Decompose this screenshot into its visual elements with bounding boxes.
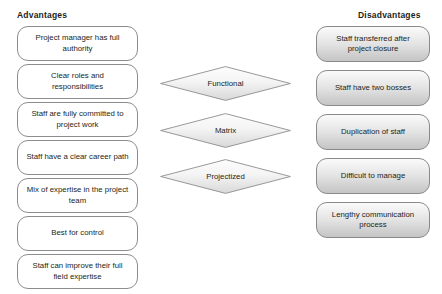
disadvantages-column-heading: Disadvantages — [358, 10, 421, 20]
disadvantage-box[interactable]: Staff transferred after project closure — [316, 26, 430, 62]
advantage-box-label: Staff can improve their full field exper… — [25, 261, 130, 282]
disadvantage-box-label: Lengthy communication process — [324, 210, 422, 231]
advantage-box-label: Clear roles and responsibilities — [25, 71, 130, 92]
advantage-box[interactable]: Best for control — [17, 216, 138, 251]
disadvantage-box-label: Staff transferred after project closure — [324, 34, 422, 55]
structure-diamond[interactable]: Projectized — [160, 159, 291, 194]
advantage-box[interactable]: Mix of expertise in the project team — [17, 178, 138, 213]
diamond-shape-icon — [160, 159, 291, 194]
structure-diamond[interactable]: Matrix — [160, 113, 291, 148]
disadvantage-box[interactable]: Duplication of staff — [316, 114, 430, 150]
disadvantage-box-label: Duplication of staff — [341, 127, 405, 138]
disadvantage-box-label: Difficult to manage — [341, 171, 405, 182]
advantage-box[interactable]: Clear roles and responsibilities — [17, 64, 138, 99]
disadvantage-box[interactable]: Lengthy communication process — [316, 202, 430, 238]
advantage-box[interactable]: Staff are fully committed to project wor… — [17, 102, 138, 137]
advantage-box-label: Best for control — [51, 228, 103, 239]
disadvantage-box-label: Staff have two bosses — [335, 83, 411, 94]
diamond-shape-icon — [160, 66, 291, 101]
diamond-shape-icon — [160, 113, 291, 148]
advantage-box-label: Project manager has full authority — [25, 33, 130, 54]
structure-diamond[interactable]: Functional — [160, 66, 291, 101]
advantage-box[interactable]: Project manager has full authority — [17, 26, 138, 61]
advantages-column-heading: Advantages — [17, 10, 67, 20]
advantage-box[interactable]: Staff can improve their full field exper… — [17, 254, 138, 289]
disadvantage-box[interactable]: Staff have two bosses — [316, 70, 430, 106]
diagram-canvas: Advantages Disadvantages Project manager… — [0, 0, 442, 294]
advantage-box[interactable]: Staff have a clear career path — [17, 140, 138, 175]
disadvantage-box[interactable]: Difficult to manage — [316, 158, 430, 194]
advantage-box-label: Mix of expertise in the project team — [25, 185, 130, 206]
advantage-box-label: Staff are fully committed to project wor… — [25, 109, 130, 130]
advantage-box-label: Staff have a clear career path — [26, 152, 128, 163]
